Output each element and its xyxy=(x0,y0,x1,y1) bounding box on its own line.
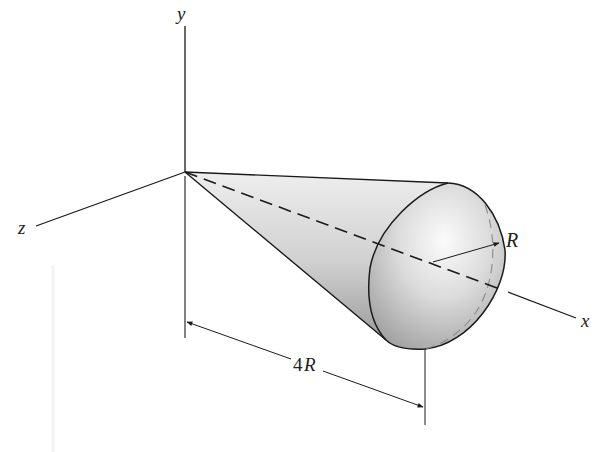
radius-label: R xyxy=(505,229,518,251)
diagram-canvas: y z x R 4 R xyxy=(0,0,607,452)
dimension-arrow-left xyxy=(187,322,291,359)
z-axis xyxy=(36,172,185,226)
cone-hemisphere-figure: y z x R 4 R xyxy=(0,0,607,452)
x-axis xyxy=(508,292,576,318)
z-axis-label: z xyxy=(17,217,26,238)
dimension-label: 4 R xyxy=(293,354,316,375)
x-axis-label: x xyxy=(580,310,590,331)
y-axis-label: y xyxy=(175,3,186,24)
dimension-arrow-right xyxy=(323,371,423,407)
dimension-number: 4 xyxy=(293,354,303,375)
dimension-symbol: R xyxy=(303,354,316,375)
